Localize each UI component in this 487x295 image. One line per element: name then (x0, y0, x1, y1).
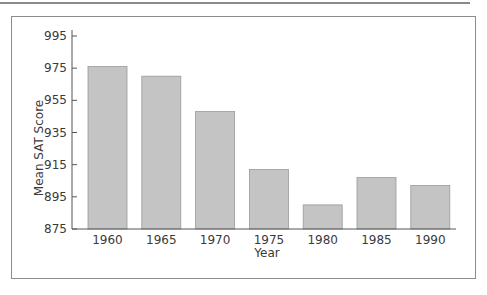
bar-1965 (142, 76, 181, 229)
y-tick-label: 875 (44, 222, 67, 236)
x-tick-label: 1990 (415, 233, 446, 247)
y-tick-label: 895 (44, 190, 67, 204)
bars-group (88, 67, 450, 229)
y-axis: 875895915935955975995 (44, 29, 77, 236)
y-tick-label: 995 (44, 29, 67, 43)
x-tick-label: 1985 (361, 233, 392, 247)
bar-1985 (357, 178, 396, 229)
bar-1980 (303, 205, 342, 229)
x-tick-label: 1980 (307, 233, 338, 247)
y-tick-label: 955 (44, 93, 67, 107)
y-tick-label: 915 (44, 158, 67, 172)
y-tick-label: 935 (44, 126, 67, 140)
x-axis-title: Year (253, 246, 279, 260)
x-tick-label: 1960 (92, 233, 123, 247)
bar-1990 (411, 186, 450, 229)
y-axis-title: Mean SAT Score (32, 100, 46, 196)
x-tick-label: 1965 (146, 233, 177, 247)
bar-1975 (249, 169, 288, 229)
x-tick-label: 1970 (200, 233, 231, 247)
bar-1960 (88, 67, 127, 229)
bar-chart: 875895915935955975995 196019651970197519… (0, 0, 487, 295)
x-tick-label: 1975 (254, 233, 285, 247)
y-tick-label: 975 (44, 61, 67, 75)
x-axis: 1960196519701975198019851990 (72, 229, 456, 247)
bar-1970 (196, 112, 235, 229)
